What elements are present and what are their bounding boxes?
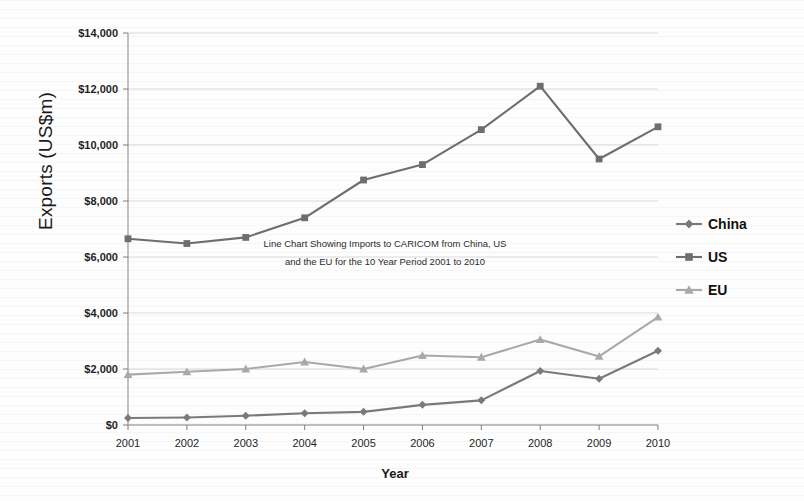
- data-point-marker: [654, 313, 663, 321]
- plot-area: $0$2,000$4,000$6,000$8,000$10,000$12,000…: [0, 0, 804, 501]
- legend-item-china[interactable]: China: [676, 216, 747, 232]
- data-point-marker: [596, 156, 603, 163]
- data-point-marker: [125, 235, 132, 242]
- data-point-marker: [301, 409, 309, 417]
- y-tick-label: $8,000: [84, 195, 118, 207]
- legend-label: China: [708, 216, 747, 232]
- legend-item-us[interactable]: US: [676, 249, 727, 265]
- y-tick-label: $4,000: [84, 307, 118, 319]
- y-tick-label: $14,000: [78, 27, 118, 39]
- y-tick-labels-group: $0$2,000$4,000$6,000$8,000$10,000$12,000…: [78, 27, 128, 431]
- data-point-marker: [536, 335, 545, 343]
- data-point-marker: [655, 123, 662, 130]
- data-point-marker: [537, 83, 544, 90]
- data-point-marker: [360, 177, 367, 184]
- x-tick-label: 2010: [646, 437, 670, 449]
- series-line-eu: [128, 317, 658, 374]
- x-tick-label: 2001: [116, 437, 140, 449]
- data-point-marker: [595, 375, 603, 383]
- chart-legend[interactable]: ChinaUSEU: [676, 216, 747, 298]
- series-eu: [124, 313, 663, 378]
- x-tick-label: 2006: [410, 437, 434, 449]
- y-tick-label: $6,000: [84, 251, 118, 263]
- data-point-marker: [360, 408, 368, 416]
- y-tick-label: $10,000: [78, 139, 118, 151]
- series-line-china: [128, 351, 658, 418]
- data-point-marker: [477, 396, 485, 404]
- data-point-marker: [685, 220, 694, 229]
- data-series-group: [124, 83, 663, 422]
- legend-item-eu[interactable]: EU: [676, 282, 727, 298]
- data-point-marker: [685, 253, 693, 261]
- data-point-marker: [242, 234, 249, 241]
- chart-canvas: Exports (US$m) Year $0$2,000$4,000$6,000…: [0, 0, 804, 501]
- series-china: [124, 347, 662, 422]
- chart-annotation: Line Chart Showing Imports to CARICOM fr…: [264, 238, 507, 267]
- x-tick-label: 2005: [351, 437, 375, 449]
- x-tick-label: 2002: [175, 437, 199, 449]
- data-point-marker: [301, 214, 308, 221]
- gridlines-group: [128, 33, 658, 425]
- y-tick-label: $2,000: [84, 363, 118, 375]
- data-point-marker: [654, 347, 662, 355]
- data-point-marker: [419, 161, 426, 168]
- y-tick-label: $0: [106, 419, 118, 431]
- annotation-line: Line Chart Showing Imports to CARICOM fr…: [264, 238, 507, 249]
- legend-label: EU: [708, 282, 727, 298]
- annotation-line: and the EU for the 10 Year Period 2001 t…: [285, 256, 485, 267]
- series-line-us: [128, 86, 658, 243]
- line-chart-svg: $0$2,000$4,000$6,000$8,000$10,000$12,000…: [0, 0, 804, 501]
- data-point-marker: [183, 240, 190, 247]
- x-tick-label: 2004: [292, 437, 316, 449]
- data-point-marker: [418, 401, 426, 409]
- data-point-marker: [124, 414, 132, 422]
- x-tick-label: 2009: [587, 437, 611, 449]
- data-point-marker: [536, 367, 544, 375]
- x-tick-label: 2007: [469, 437, 493, 449]
- series-us: [125, 83, 662, 247]
- data-point-marker: [478, 126, 485, 133]
- y-tick-label: $12,000: [78, 83, 118, 95]
- x-tick-labels-group: 2001200220032004200520062007200820092010: [116, 425, 670, 449]
- data-point-marker: [242, 412, 250, 420]
- axes-group: [128, 33, 658, 425]
- legend-label: US: [708, 249, 727, 265]
- x-tick-label: 2003: [234, 437, 258, 449]
- data-point-marker: [183, 413, 191, 421]
- x-tick-label: 2008: [528, 437, 552, 449]
